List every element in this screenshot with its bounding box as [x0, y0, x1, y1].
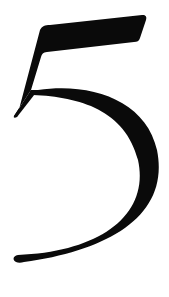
numeral-five-graphic: 5: [0, 0, 169, 297]
five-glyph-icon: [0, 0, 169, 297]
